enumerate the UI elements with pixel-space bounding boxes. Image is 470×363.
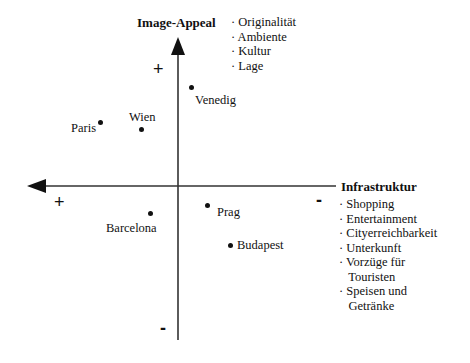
- factor: · Kultur: [231, 44, 296, 59]
- label-barcelona: Barcelona: [106, 221, 157, 236]
- point-venedig: [189, 85, 194, 90]
- label-wien: Wien: [129, 110, 156, 125]
- y-plus-sign: +: [153, 59, 164, 80]
- label-budapest: Budapest: [237, 238, 284, 253]
- y-axis-title: Image-Appeal: [137, 15, 216, 31]
- factor: · Ambiente: [231, 30, 296, 45]
- factor: · Speisen und: [339, 284, 437, 299]
- point-budapest: [228, 243, 233, 248]
- point-wien: [139, 127, 144, 132]
- factor: · Vorzüge für: [339, 255, 437, 270]
- y-minus-sign: -: [160, 318, 166, 339]
- factor: · Originalität: [231, 15, 296, 30]
- factor: · Cityerreichbarkeit: [339, 226, 437, 241]
- x-axis-title: Infrastruktur: [341, 179, 417, 195]
- y-axis-factors: · Originalität · Ambiente · Kultur · Lag…: [231, 15, 296, 73]
- factor: · Shopping: [339, 197, 437, 212]
- label-paris: Paris: [71, 121, 96, 136]
- factor: · Unterkunft: [339, 241, 437, 256]
- factor: Touristen: [339, 270, 437, 285]
- x-axis-factors: · Shopping · Entertainment · Cityerreich…: [339, 197, 437, 313]
- factor: · Lage: [231, 59, 296, 74]
- x-minus-sign: -: [316, 190, 322, 211]
- factor: Getränke: [339, 299, 437, 314]
- label-prag: Prag: [217, 205, 240, 220]
- point-paris: [98, 120, 103, 125]
- x-plus-sign: +: [54, 192, 65, 213]
- factor: · Entertainment: [339, 212, 437, 227]
- point-prag: [205, 203, 210, 208]
- point-barcelona: [148, 211, 153, 216]
- label-venedig: Venedig: [195, 93, 236, 108]
